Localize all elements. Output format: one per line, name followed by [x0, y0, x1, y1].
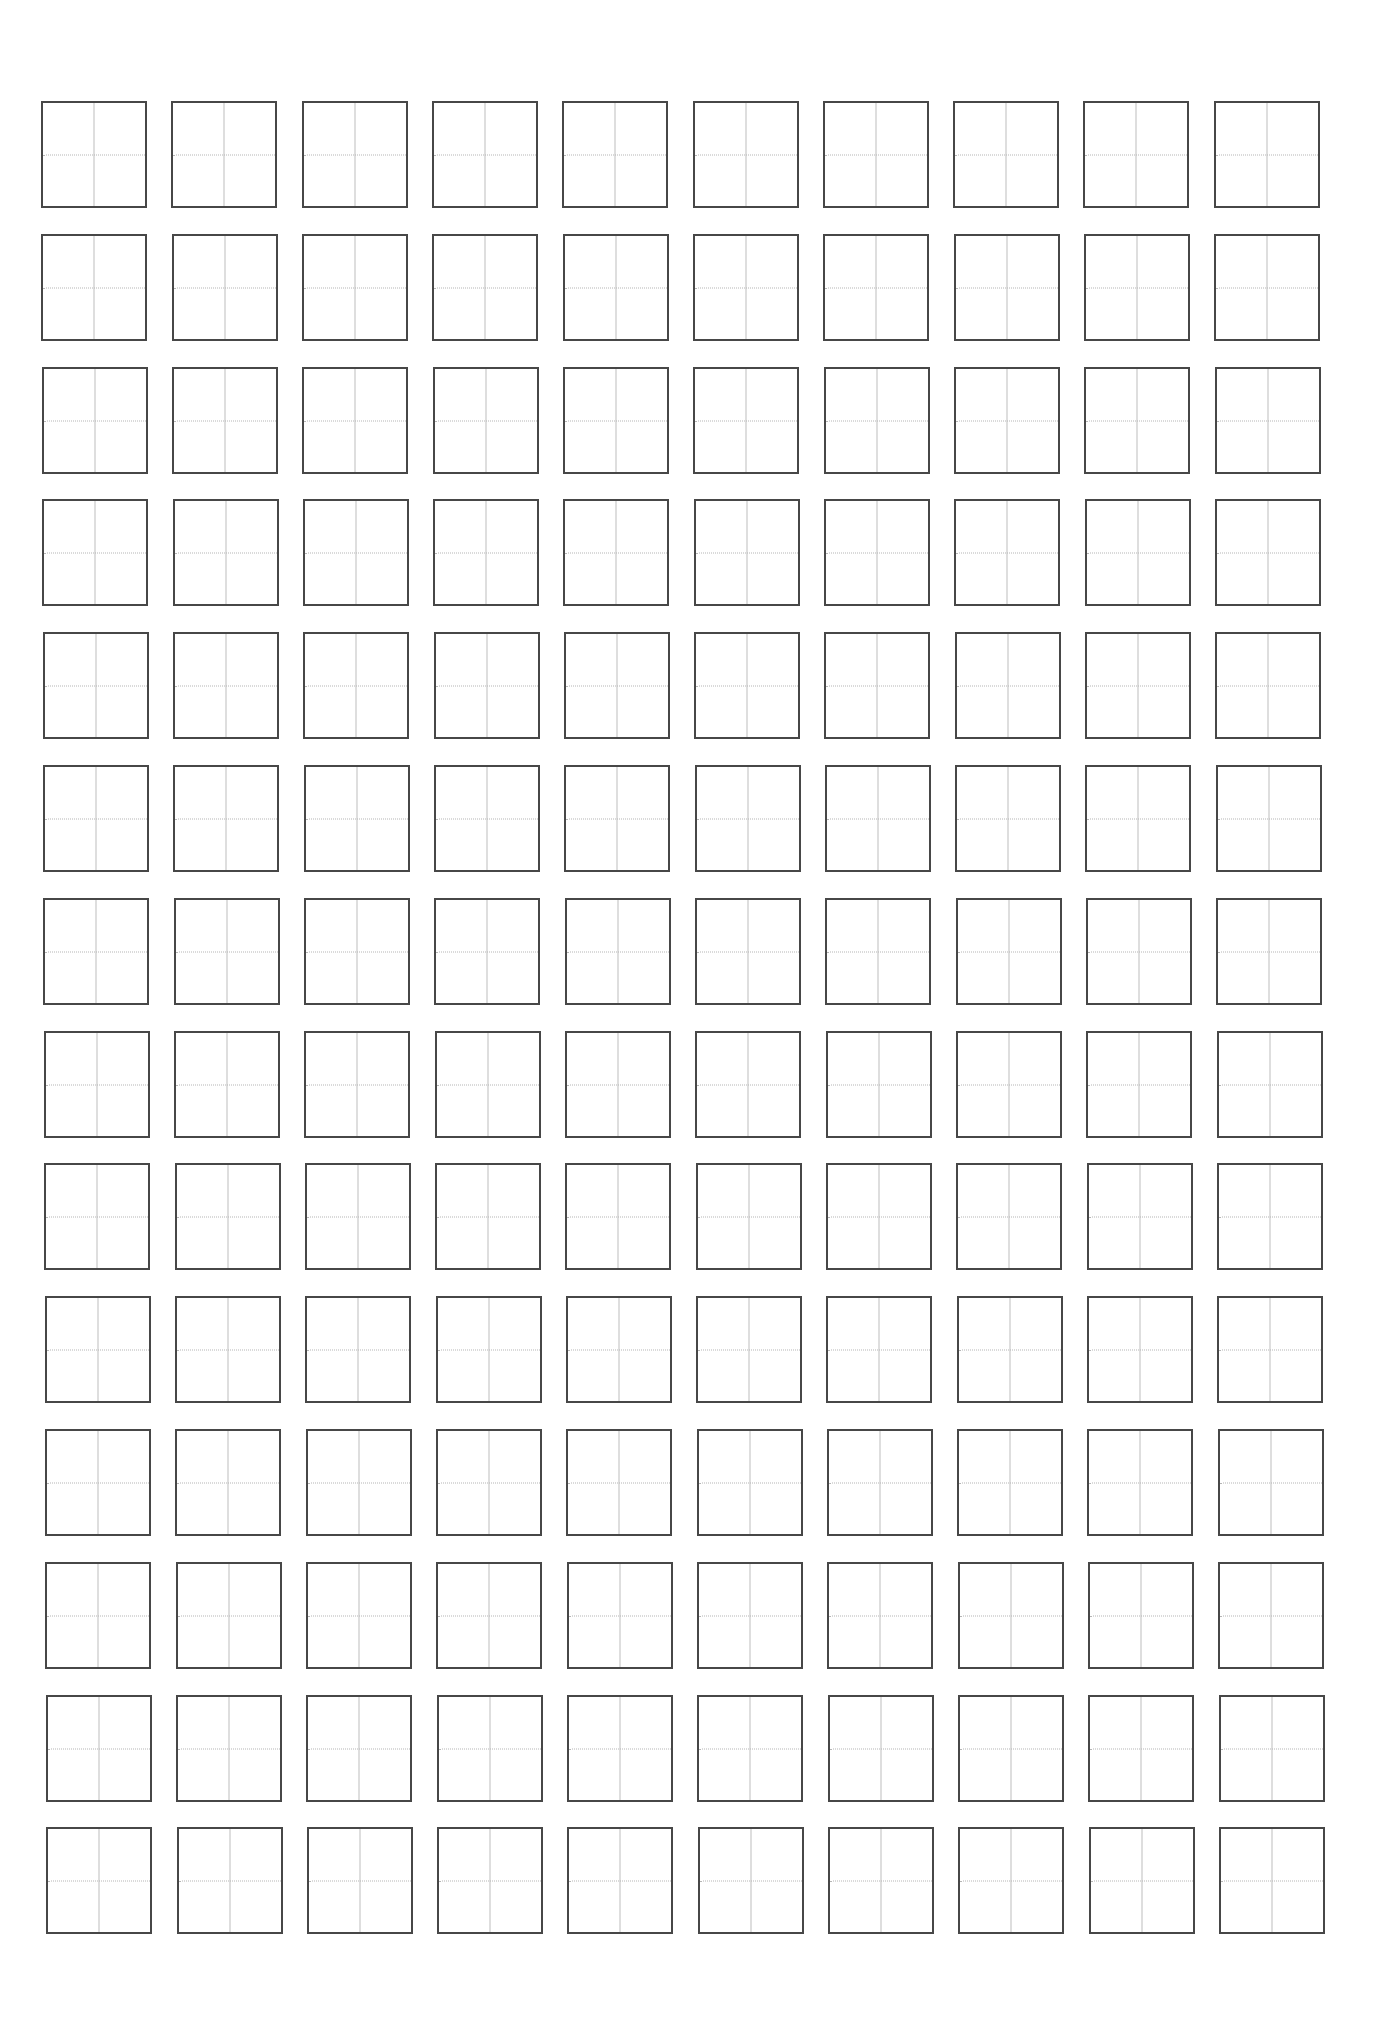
center-horizontal-guide: [958, 1084, 1060, 1085]
practice-cell: [45, 1296, 151, 1403]
center-horizontal-guide: [305, 552, 407, 553]
practice-cell: [303, 632, 409, 739]
center-horizontal-guide: [699, 1615, 801, 1616]
practice-cell: [825, 898, 931, 1005]
center-horizontal-guide: [826, 685, 928, 686]
practice-cell: [1216, 765, 1322, 872]
practice-cell: [433, 499, 539, 606]
center-horizontal-guide: [1217, 420, 1319, 421]
practice-cell: [565, 1163, 671, 1270]
practice-cell: [1215, 632, 1321, 739]
practice-cell: [173, 632, 279, 739]
practice-cell: [42, 367, 148, 474]
practice-cell: [823, 234, 929, 341]
center-horizontal-guide: [1221, 1880, 1323, 1881]
practice-cell: [1085, 765, 1191, 872]
center-horizontal-guide: [828, 1084, 930, 1085]
center-horizontal-guide: [828, 1349, 930, 1350]
center-horizontal-guide: [699, 1482, 801, 1483]
practice-cell: [173, 765, 279, 872]
center-horizontal-guide: [47, 1615, 149, 1616]
practice-cell: [46, 1827, 152, 1934]
practice-cell: [958, 1562, 1064, 1669]
center-horizontal-guide: [1089, 1482, 1191, 1483]
practice-cell: [563, 367, 669, 474]
center-horizontal-guide: [1085, 154, 1187, 155]
practice-cell: [44, 1031, 150, 1138]
center-horizontal-guide: [439, 1748, 541, 1749]
center-horizontal-guide: [306, 951, 408, 952]
center-horizontal-guide: [830, 1748, 932, 1749]
center-horizontal-guide: [696, 552, 798, 553]
center-horizontal-guide: [1090, 1615, 1192, 1616]
practice-cell: [434, 632, 540, 739]
center-horizontal-guide: [175, 685, 277, 686]
center-horizontal-guide: [306, 1084, 408, 1085]
center-horizontal-guide: [958, 951, 1060, 952]
practice-cell: [46, 1695, 152, 1802]
practice-cell: [175, 1429, 281, 1536]
practice-cell: [693, 367, 799, 474]
center-horizontal-guide: [1218, 818, 1320, 819]
practice-cell: [565, 1031, 671, 1138]
practice-cell: [955, 632, 1061, 739]
center-horizontal-guide: [568, 1482, 670, 1483]
practice-cell: [953, 101, 1059, 208]
practice-cell: [1086, 1031, 1192, 1138]
center-horizontal-guide: [564, 154, 666, 155]
practice-cell: [1087, 1429, 1193, 1536]
center-horizontal-guide: [959, 1349, 1061, 1350]
center-horizontal-guide: [45, 685, 147, 686]
center-horizontal-guide: [569, 1615, 671, 1616]
center-horizontal-guide: [308, 1615, 410, 1616]
practice-cell: [824, 367, 930, 474]
center-horizontal-guide: [957, 685, 1059, 686]
practice-cell: [565, 898, 671, 1005]
practice-cell: [41, 234, 147, 341]
practice-cell: [955, 765, 1061, 872]
center-horizontal-guide: [829, 1482, 931, 1483]
center-horizontal-guide: [435, 420, 537, 421]
center-horizontal-guide: [434, 287, 536, 288]
center-horizontal-guide: [1217, 552, 1319, 553]
center-horizontal-guide: [436, 818, 538, 819]
practice-cell: [436, 1429, 542, 1536]
center-horizontal-guide: [437, 1084, 539, 1085]
center-horizontal-guide: [825, 154, 927, 155]
practice-cell: [304, 1031, 410, 1138]
center-horizontal-guide: [699, 1748, 801, 1749]
center-horizontal-guide: [569, 1748, 671, 1749]
practice-cell: [43, 898, 149, 1005]
practice-cell: [303, 499, 409, 606]
practice-cell: [436, 1562, 542, 1669]
practice-cell: [566, 1429, 672, 1536]
center-horizontal-guide: [43, 154, 145, 155]
center-horizontal-guide: [178, 1615, 280, 1616]
practice-cell: [694, 499, 800, 606]
practice-cell: [693, 101, 799, 208]
center-horizontal-guide: [956, 287, 1058, 288]
center-horizontal-guide: [434, 154, 536, 155]
center-horizontal-guide: [309, 1880, 411, 1881]
center-horizontal-guide: [565, 287, 667, 288]
center-horizontal-guide: [1089, 1349, 1191, 1350]
center-horizontal-guide: [436, 951, 538, 952]
practice-cell: [1084, 234, 1190, 341]
practice-cell: [826, 1163, 932, 1270]
practice-cell: [1217, 1296, 1323, 1403]
practice-cell: [1215, 499, 1321, 606]
practice-cell: [564, 632, 670, 739]
practice-cell: [956, 1163, 1062, 1270]
center-horizontal-guide: [567, 1084, 669, 1085]
practice-cell: [697, 1562, 803, 1669]
center-horizontal-guide: [695, 287, 797, 288]
center-horizontal-guide: [1088, 951, 1190, 952]
practice-cell: [176, 1562, 282, 1669]
practice-cell: [172, 367, 278, 474]
practice-cell: [432, 234, 538, 341]
practice-cell: [44, 1163, 150, 1270]
center-horizontal-guide: [830, 1880, 932, 1881]
center-horizontal-guide: [567, 1216, 669, 1217]
center-horizontal-guide: [176, 951, 278, 952]
center-horizontal-guide: [826, 420, 928, 421]
